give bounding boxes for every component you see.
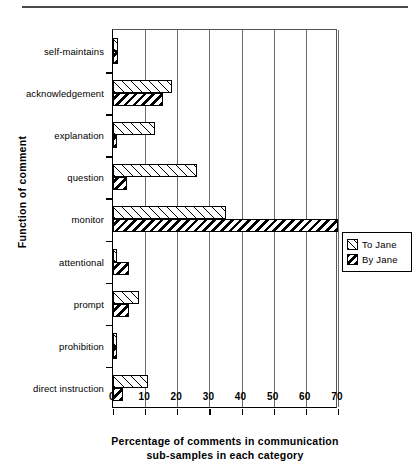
bar-by-jane: [113, 135, 117, 148]
x-axis-title-line1: Percentage of comments in communication: [75, 434, 375, 448]
top-horizontal-rule: [22, 6, 408, 8]
legend-swatch-to-jane-icon: [347, 239, 358, 250]
category-row: direct instruction: [113, 367, 336, 409]
y-axis-tick: [106, 367, 113, 368]
chart-legend: To Jane By Jane: [342, 232, 412, 272]
bar-to-jane: [113, 38, 118, 51]
legend-swatch-by-jane-icon: [347, 254, 358, 265]
x-axis-title-line2: sub-samples in each category: [75, 448, 375, 462]
bar-to-jane: [113, 80, 172, 93]
x-axis-tick: [338, 409, 339, 415]
y-axis-category-label: monitor: [72, 214, 104, 225]
x-axis-tick-label: 40: [235, 391, 247, 402]
gridline: [338, 30, 339, 407]
y-axis-tick: [106, 156, 113, 157]
y-axis-tick: [106, 198, 113, 199]
category-row: self-maintains: [113, 30, 336, 72]
x-axis-tick-label: 50: [267, 391, 279, 402]
bar-to-jane: [113, 122, 155, 135]
legend-item-to-jane: To Jane: [347, 237, 408, 252]
category-row: attentional: [113, 241, 336, 283]
y-axis-tick: [106, 72, 113, 73]
bar-to-jane: [113, 206, 226, 219]
y-axis-category-label: question: [67, 172, 104, 183]
x-axis-tick: [177, 409, 178, 415]
legend-item-by-jane: By Jane: [347, 252, 408, 267]
x-axis-tick: [209, 409, 210, 415]
x-axis-tick: [242, 409, 243, 415]
y-axis-category-label: self-maintains: [44, 46, 104, 57]
bar-to-jane: [113, 291, 139, 304]
x-axis-tick-label: 30: [203, 391, 215, 402]
x-axis-title: Percentage of comments in communication …: [75, 434, 375, 462]
bar-by-jane: [113, 177, 127, 190]
y-axis-category-label: attentional: [59, 256, 104, 267]
x-axis-tick: [274, 409, 275, 415]
y-axis-tick: [106, 325, 113, 326]
bar-by-jane: [113, 304, 129, 317]
y-axis-category-label: acknowledgement: [26, 88, 104, 99]
x-axis-tick-label: 0: [109, 391, 115, 402]
bar-by-jane: [113, 51, 118, 64]
y-axis-category-label: direct instruction: [33, 382, 104, 393]
x-axis-tick-label: 20: [171, 391, 183, 402]
bar-by-jane: [113, 93, 163, 106]
y-axis-tick: [106, 283, 113, 284]
y-axis-tick: [106, 241, 113, 242]
x-axis-tick: [113, 409, 114, 415]
category-row: monitor: [113, 198, 336, 240]
x-axis-tick-label: 10: [138, 391, 150, 402]
category-row: explanation: [113, 114, 336, 156]
y-axis-tick: [106, 114, 113, 115]
bar-to-jane: [113, 333, 117, 346]
bar-by-jane: [113, 262, 129, 275]
bar-to-jane: [113, 375, 148, 388]
bar-to-jane: [113, 249, 117, 262]
y-axis-category-label: prohibition: [59, 340, 104, 351]
category-row: acknowledgement: [113, 72, 336, 114]
x-axis-tick: [145, 409, 146, 415]
category-row: question: [113, 156, 336, 198]
x-axis-tick-label: 60: [299, 391, 311, 402]
y-axis-category-label: explanation: [54, 130, 104, 141]
legend-label-by-jane: By Jane: [362, 254, 398, 265]
x-axis-tick-label: 70: [331, 391, 343, 402]
y-axis-title: Function of comment: [16, 112, 28, 272]
bar-by-jane: [113, 346, 117, 359]
category-row: prompt: [113, 283, 336, 325]
legend-label-to-jane: To Jane: [362, 239, 397, 250]
y-axis-category-label: prompt: [74, 298, 104, 309]
bar-by-jane: [113, 219, 338, 232]
plot-area: self-maintainsacknowledgementexplanation…: [112, 29, 337, 408]
category-row: prohibition: [113, 325, 336, 367]
bar-to-jane: [113, 164, 197, 177]
bar-chart-figure: Function of comment self-maintainsacknow…: [0, 0, 418, 472]
x-axis-tick: [306, 409, 307, 415]
